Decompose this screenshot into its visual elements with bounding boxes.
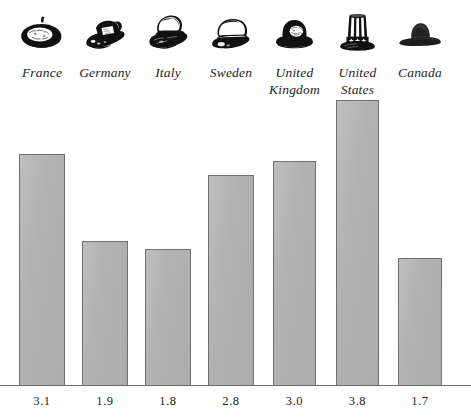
value-label-sweden: 2.8 xyxy=(208,394,254,408)
category-label-line2: Kingdom xyxy=(269,82,320,97)
category-label-canada: Canada xyxy=(384,64,456,81)
value-label-france: 3.1 xyxy=(19,394,65,408)
value-label-united-kingdom: 3.0 xyxy=(273,394,316,408)
bar-united-kingdom xyxy=(273,161,316,385)
value-label-canada: 1.7 xyxy=(398,394,442,408)
value-label-germany: 1.9 xyxy=(82,394,128,408)
category-label-line1: United xyxy=(339,65,377,80)
bar-sheen xyxy=(20,155,64,385)
category-label-line1: United xyxy=(276,65,314,80)
bar-sheen xyxy=(274,162,315,385)
bar-sheen xyxy=(399,259,441,385)
bar-united-states xyxy=(336,100,379,385)
chart-baseline xyxy=(0,385,471,386)
flat-cap-icon xyxy=(208,0,254,62)
bar-canada xyxy=(398,258,442,385)
category-label-united-states: United States xyxy=(322,64,393,98)
beret-icon xyxy=(19,0,65,62)
bar-sheen xyxy=(146,250,190,385)
bar-germany xyxy=(82,241,128,385)
bar-sweden xyxy=(208,175,254,385)
category-label-sweden: Sweden xyxy=(194,64,268,81)
category-label-line1: Germany xyxy=(79,65,131,80)
bar-italy xyxy=(145,249,191,385)
bar-sheen xyxy=(337,101,378,385)
bar-sheen xyxy=(83,242,127,385)
bar-france xyxy=(19,154,65,385)
category-label-line1: Sweden xyxy=(210,65,252,80)
hat-ownership-bar-chart: France Germany xyxy=(0,0,471,419)
fedora-icon xyxy=(145,0,191,62)
mountie-hat-icon xyxy=(398,0,442,62)
bar-sheen xyxy=(209,176,253,385)
value-label-italy: 1.8 xyxy=(145,394,191,408)
category-label-line2: States xyxy=(341,82,374,97)
tyrolean-hat-icon xyxy=(82,0,128,62)
category-label-line1: France xyxy=(22,65,62,80)
value-label-united-states: 3.8 xyxy=(336,394,379,408)
category-label-united-kingdom: United Kingdom xyxy=(259,64,330,98)
uncle-sam-top-hat-icon xyxy=(336,0,379,62)
bowler-hat-icon xyxy=(273,0,316,62)
category-label-line1: Canada xyxy=(398,65,442,80)
category-label-line1: Italy xyxy=(155,65,181,80)
